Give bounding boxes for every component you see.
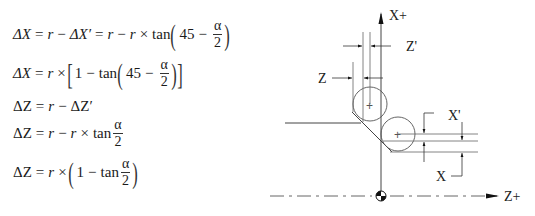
x-dimension: X bbox=[436, 153, 462, 184]
origin-marker-icon bbox=[376, 191, 386, 201]
x-label: X bbox=[436, 169, 446, 184]
x-axis-arrow-icon bbox=[379, 12, 384, 24]
x-prime-dimension: X' bbox=[424, 108, 462, 162]
z-label: Z bbox=[318, 71, 327, 86]
z-prime-label: Z' bbox=[406, 39, 417, 54]
center-mark-icon: + bbox=[366, 99, 373, 113]
z-dimension: Z bbox=[318, 71, 383, 86]
tool-nose-diagram: X+ Z+ + + Z' Z bbox=[0, 0, 535, 216]
workpiece-contour bbox=[285, 112, 392, 152]
z-axis-arrow-icon bbox=[486, 194, 499, 199]
center-mark-icon: + bbox=[394, 128, 401, 142]
z-prime-dimension: Z' bbox=[343, 39, 417, 54]
x-axis-label: X+ bbox=[389, 8, 407, 23]
z-axis-label: Z+ bbox=[504, 189, 521, 204]
z-axis: Z+ bbox=[270, 189, 521, 204]
x-prime-label: X' bbox=[448, 108, 461, 123]
x-axis: X+ bbox=[379, 8, 408, 196]
